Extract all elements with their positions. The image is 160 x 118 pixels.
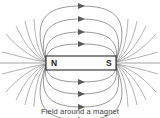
- arrowhead-above-3: [78, 16, 85, 22]
- field-diagram-svg: N S: [0, 0, 160, 118]
- radial-s-3: [116, 21, 137, 62]
- arrowhead-above-1: [78, 41, 85, 47]
- field-loop-above-3: [43, 19, 118, 61]
- field-loop-below-3: [43, 65, 118, 107]
- arrowhead-above-4: [78, 3, 85, 9]
- north-pole-label: N: [51, 58, 57, 68]
- arrowheads-above: [78, 3, 85, 47]
- arrowhead-above-2: [78, 29, 85, 35]
- radial-n-9: [2, 52, 46, 62]
- radial-s-7: [116, 64, 137, 105]
- radial-s-9: [116, 52, 158, 62]
- magnet-field-figure: N S Field around a magnet: [0, 0, 160, 118]
- figure-caption: Field around a magnet: [0, 107, 160, 116]
- arrowhead-below-4: [78, 117, 85, 118]
- radial-n-10: [2, 64, 46, 74]
- radial-s-10: [116, 64, 158, 74]
- arrowhead-below-1: [78, 79, 85, 85]
- radial-n-3: [25, 21, 46, 62]
- arrowhead-below-2: [78, 91, 85, 97]
- radial-n-7: [25, 64, 46, 105]
- south-pole-label: S: [106, 58, 112, 68]
